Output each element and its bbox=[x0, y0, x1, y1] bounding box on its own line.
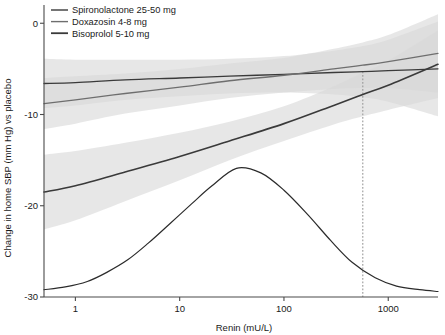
y-axis-ticks: 0-10-20-30 bbox=[24, 18, 44, 303]
renin-sbp-chart: 1101001000 0-10-20-30 Renin (mU/L) Chang… bbox=[0, 0, 445, 335]
chart-figure: 1101001000 0-10-20-30 Renin (mU/L) Chang… bbox=[0, 0, 445, 335]
y-tick-label: -10 bbox=[24, 109, 38, 120]
x-tick-label: 1 bbox=[73, 303, 78, 314]
legend-label: Doxazosin 4-8 mg bbox=[72, 17, 147, 27]
x-tick-label: 1000 bbox=[378, 303, 399, 314]
y-axis-title: Change in home SBP (mm Hg) vs placebo bbox=[2, 79, 13, 258]
x-tick-label: 10 bbox=[174, 303, 185, 314]
x-axis-title: Renin (mU/L) bbox=[216, 322, 273, 333]
y-tick-label: -30 bbox=[24, 291, 38, 302]
confidence-bands bbox=[44, 14, 438, 229]
y-tick-label: 0 bbox=[33, 18, 38, 29]
x-tick-label: 100 bbox=[276, 303, 292, 314]
chart-legend: Spironolactone 25-50 mgDoxazosin 4-8 mgB… bbox=[51, 5, 176, 38]
legend-label: Spironolactone 25-50 mg bbox=[72, 5, 176, 15]
y-tick-label: -20 bbox=[24, 200, 38, 211]
x-axis-ticks: 1101001000 bbox=[73, 297, 399, 314]
legend-label: Bisoprolol 5-10 mg bbox=[72, 29, 150, 39]
